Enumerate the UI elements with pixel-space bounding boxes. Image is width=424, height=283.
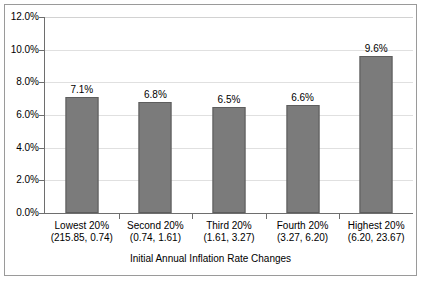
- y-axis-tick-label: 2.0%: [5, 175, 39, 185]
- y-axis-tick-label: 10.0%: [5, 45, 39, 55]
- y-axis-tick: [39, 115, 45, 116]
- bar-group: 6.6%: [266, 17, 340, 213]
- chart-container: 0.0%2.0%4.0%6.0%8.0%10.0%12.0% 7.1%6.8%6…: [4, 4, 417, 276]
- bar[interactable]: [360, 56, 393, 213]
- bar[interactable]: [139, 102, 172, 213]
- y-axis-tick: [39, 17, 45, 18]
- y-axis-labels: 0.0%2.0%4.0%6.0%8.0%10.0%12.0%: [5, 5, 39, 277]
- bar[interactable]: [286, 105, 319, 213]
- x-axis-line: [44, 213, 413, 214]
- y-axis-tick: [39, 180, 45, 181]
- bar-value-label: 9.6%: [365, 43, 388, 54]
- x-axis-tick: [339, 214, 340, 219]
- category-name: Third 20%: [206, 220, 252, 231]
- bar-group: 7.1%: [45, 17, 119, 213]
- y-axis-tick: [39, 148, 45, 149]
- y-axis-tick-label: 6.0%: [5, 110, 39, 120]
- category-range: (3.27, 6.20): [266, 232, 340, 244]
- x-axis-category-label: Third 20%(1.61, 3.27): [192, 220, 266, 244]
- y-axis-tick: [39, 82, 45, 83]
- category-name: Second 20%: [127, 220, 184, 231]
- x-axis-tick: [192, 214, 193, 219]
- bar-value-label: 6.8%: [144, 89, 167, 100]
- y-axis-tick-label: 12.0%: [5, 12, 39, 22]
- category-range: (0.74, 1.61): [119, 232, 193, 244]
- y-axis-tick-label: 8.0%: [5, 77, 39, 87]
- category-range: (215.85, 0.74): [45, 232, 119, 244]
- bar-value-label: 6.5%: [218, 94, 241, 105]
- bar-value-label: 7.1%: [70, 84, 93, 95]
- bar[interactable]: [212, 107, 245, 213]
- x-axis-tick: [119, 214, 120, 219]
- x-axis-tick: [266, 214, 267, 219]
- bar-value-label: 6.6%: [291, 92, 314, 103]
- x-axis-title: Initial Annual Inflation Rate Changes: [5, 253, 416, 264]
- bar[interactable]: [65, 97, 98, 213]
- category-range: (1.61, 3.27): [192, 232, 266, 244]
- x-axis-category-label: Fourth 20%(3.27, 6.20): [266, 220, 340, 244]
- y-axis-tick: [39, 50, 45, 51]
- bar-group: 6.5%: [192, 17, 266, 213]
- x-axis-category-label: Lowest 20%(215.85, 0.74): [45, 220, 119, 244]
- x-axis-category-label: Highest 20%(6.20, 23.67): [339, 220, 413, 244]
- category-name: Fourth 20%: [277, 220, 329, 231]
- y-axis-tick: [39, 213, 45, 214]
- bar-group: 6.8%: [119, 17, 193, 213]
- y-axis-tick-label: 0.0%: [5, 208, 39, 218]
- y-axis-tick-label: 4.0%: [5, 143, 39, 153]
- x-axis-category-label: Second 20%(0.74, 1.61): [119, 220, 193, 244]
- plot-area: 7.1%6.8%6.5%6.6%9.6%: [45, 17, 413, 213]
- category-range: (6.20, 23.67): [339, 232, 413, 244]
- category-name: Highest 20%: [348, 220, 405, 231]
- bar-group: 9.6%: [339, 17, 413, 213]
- category-name: Lowest 20%: [55, 220, 109, 231]
